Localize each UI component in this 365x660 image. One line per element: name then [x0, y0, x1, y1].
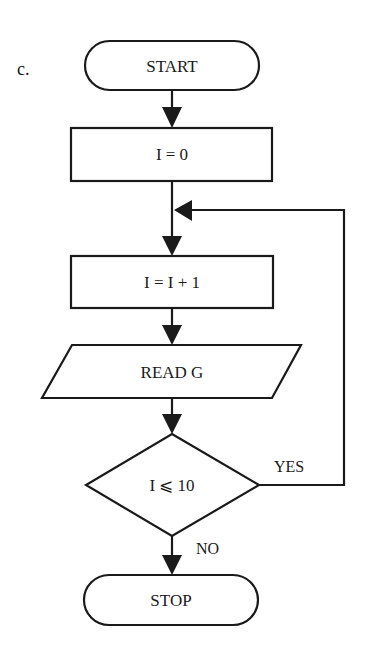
yes-label: YES — [274, 458, 304, 475]
read-label: READ G — [141, 363, 204, 382]
increment-process-box: I = I + 1 — [71, 256, 273, 308]
start-label: START — [146, 57, 198, 76]
arrow-down-icon — [162, 236, 182, 256]
arrow-down-icon — [162, 414, 182, 434]
decision-label: I ⩽ 10 — [149, 476, 194, 495]
read-io-parallelogram: READ G — [42, 345, 301, 398]
increment-label: I = I + 1 — [144, 273, 200, 292]
arrow-down-icon — [162, 555, 182, 575]
arrow-down-icon — [162, 107, 182, 128]
decision-diamond: I ⩽ 10 — [86, 434, 259, 536]
figure-label: c. — [17, 59, 30, 79]
stop-terminal: STOP — [84, 575, 258, 625]
init-process-box: I = 0 — [71, 128, 272, 181]
arrow-down-icon — [162, 325, 182, 345]
flowchart-canvas: c. START I = 0 I = I + 1 READ G I ⩽ 10 Y… — [0, 0, 365, 660]
stop-label: STOP — [150, 591, 191, 610]
no-label: NO — [196, 540, 219, 557]
start-terminal: START — [85, 41, 259, 90]
init-label: I = 0 — [156, 145, 188, 164]
arrow-left-icon — [174, 200, 192, 221]
